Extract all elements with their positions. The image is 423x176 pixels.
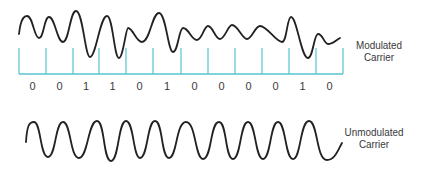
bit-label: 0 <box>185 80 205 92</box>
unmodulated-label-line2: Carrier <box>344 139 404 150</box>
bit-label: 1 <box>76 80 96 92</box>
bit-label: 0 <box>130 80 150 92</box>
modulated-label-line2: Carrier <box>350 52 408 63</box>
bit-label: 0 <box>50 80 70 92</box>
bit-label: 1 <box>103 80 123 92</box>
bit-label: 0 <box>23 80 43 92</box>
bit-label: 0 <box>266 80 286 92</box>
modulated-carrier-wave <box>19 11 340 58</box>
bit-label: 1 <box>157 80 177 92</box>
bit-label: 0 <box>212 80 232 92</box>
unmodulated-carrier-wave <box>26 121 342 161</box>
bit-timeline <box>19 48 343 74</box>
bit-label: 0 <box>239 80 259 92</box>
modulated-carrier-label: Modulated Carrier <box>350 40 408 63</box>
unmodulated-label-line1: Unmodulated <box>344 127 404 138</box>
unmodulated-carrier-label: Unmodulated Carrier <box>344 127 404 150</box>
modulated-label-line1: Modulated <box>350 40 408 51</box>
bit-label: 1 <box>293 80 313 92</box>
bit-label: 0 <box>320 80 340 92</box>
